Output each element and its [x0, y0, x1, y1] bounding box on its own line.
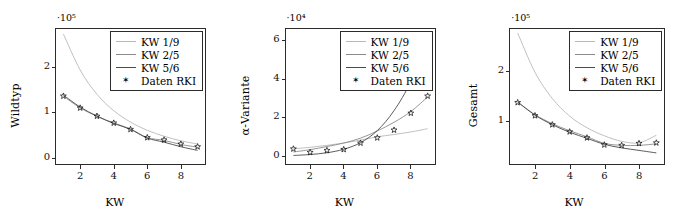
data-marker	[195, 144, 201, 150]
x-tick-label: 8	[629, 170, 649, 181]
legend-label: KW 5/6	[137, 62, 180, 74]
x-axis-label-1: KW	[230, 196, 460, 209]
legend-item: KW 5/6	[574, 61, 656, 74]
legend-item: KW 1/9	[115, 35, 197, 48]
chart-panel-gesamt: Gesamt ·10⁵ 122468 KW 1/9KW 2/5KW 5/6✶Da…	[459, 0, 689, 211]
legend-item: ✶Daten RKI	[115, 74, 197, 87]
legend-0: KW 1/9KW 2/5KW 5/6✶Daten RKI	[110, 31, 203, 91]
legend-line-swatch	[115, 61, 137, 74]
legend-line-swatch	[574, 48, 596, 61]
x-tick-label: 8	[171, 170, 191, 181]
x-tick-label: 6	[367, 170, 387, 181]
x-tick-mark	[535, 165, 536, 169]
legend-label: KW 2/5	[596, 49, 639, 61]
x-tick-mark	[377, 165, 378, 169]
y-tick-label: 2	[259, 110, 280, 121]
legend-2: KW 1/9KW 2/5KW 5/6✶Daten RKI	[569, 31, 662, 91]
legend-1: KW 1/9KW 2/5KW 5/6✶Daten RKI	[340, 31, 433, 91]
legend-label: KW 5/6	[367, 62, 410, 74]
x-tick-label: 6	[137, 170, 157, 181]
y-tick-mark	[282, 156, 286, 157]
x-tick-label: 4	[104, 170, 124, 181]
series-line-kw-1-9	[293, 129, 427, 149]
x-tick-label: 2	[300, 170, 320, 181]
y-tick-label: 0	[259, 149, 280, 160]
multi-panel-figure: Wildtyp ·10⁵ 0122468 KW 1/9KW 2/5KW 5/6✶…	[0, 0, 689, 211]
legend-line-swatch	[115, 48, 137, 61]
legend-line-swatch	[345, 61, 367, 74]
series-line-kw-5-6	[63, 95, 197, 150]
legend-label: KW 2/5	[137, 49, 180, 61]
legend-item: KW 1/9	[345, 35, 427, 48]
legend-item: KW 5/6	[345, 61, 427, 74]
y-tick-mark	[506, 71, 510, 72]
x-tick-mark	[80, 165, 81, 169]
x-tick-label: 6	[595, 170, 615, 181]
legend-item: KW 2/5	[115, 48, 197, 61]
legend-item: KW 5/6	[115, 61, 197, 74]
y-tick-label: 2	[483, 64, 504, 75]
legend-label: Daten RKI	[137, 75, 196, 87]
x-tick-label: 4	[560, 170, 580, 181]
x-axis-label-2: KW	[459, 196, 689, 209]
x-tick-mark	[310, 165, 311, 169]
data-marker	[391, 127, 397, 133]
x-tick-mark	[570, 165, 571, 169]
star-marker-icon: ✶	[574, 74, 596, 87]
legend-item: KW 1/9	[574, 35, 656, 48]
y-tick-mark	[282, 40, 286, 41]
legend-item: KW 2/5	[345, 48, 427, 61]
legend-line-swatch	[345, 35, 367, 48]
x-tick-label: 4	[333, 170, 353, 181]
y-tick-mark	[506, 121, 510, 122]
legend-line-swatch	[345, 48, 367, 61]
legend-item: KW 2/5	[574, 48, 656, 61]
x-tick-label: 2	[525, 170, 545, 181]
data-marker	[424, 93, 430, 99]
y-tick-mark	[52, 158, 56, 159]
chart-panel-wildtyp: Wildtyp ·10⁵ 0122468 KW 1/9KW 2/5KW 5/6✶…	[0, 0, 230, 211]
x-tick-label: 2	[70, 170, 90, 181]
star-marker-icon: ✶	[115, 74, 137, 87]
y-tick-label: 1	[483, 114, 504, 125]
data-marker	[654, 140, 660, 146]
y-tick-mark	[52, 112, 56, 113]
legend-label: KW 2/5	[367, 49, 410, 61]
y-tick-label: 6	[259, 33, 280, 44]
x-axis-label-0: KW	[0, 196, 230, 209]
y-tick-label: 4	[259, 72, 280, 83]
legend-item: ✶Daten RKI	[345, 74, 427, 87]
legend-label: KW 5/6	[596, 62, 639, 74]
chart-panel-alpha-variante: α-Variante ·10⁴ 02462468 KW 1/9KW 2/5KW …	[230, 0, 460, 211]
legend-label: KW 1/9	[137, 36, 180, 48]
data-marker	[374, 135, 380, 141]
legend-label: KW 1/9	[596, 36, 639, 48]
legend-line-swatch	[574, 35, 596, 48]
y-tick-mark	[52, 67, 56, 68]
x-tick-mark	[114, 165, 115, 169]
legend-line-swatch	[574, 61, 596, 74]
x-tick-mark	[343, 165, 344, 169]
x-tick-mark	[410, 165, 411, 169]
legend-label: Daten RKI	[596, 75, 655, 87]
legend-line-swatch	[115, 35, 137, 48]
y-tick-mark	[282, 79, 286, 80]
x-tick-label: 8	[400, 170, 420, 181]
legend-label: Daten RKI	[367, 75, 426, 87]
y-tick-label: 0	[29, 151, 50, 162]
data-marker	[407, 110, 413, 116]
legend-label: KW 1/9	[367, 36, 410, 48]
x-tick-mark	[605, 165, 606, 169]
x-tick-mark	[639, 165, 640, 169]
y-tick-label: 1	[29, 105, 50, 116]
x-tick-mark	[181, 165, 182, 169]
y-tick-label: 2	[29, 60, 50, 71]
x-tick-mark	[147, 165, 148, 169]
legend-item: ✶Daten RKI	[574, 74, 656, 87]
series-line-kw-2-5	[293, 97, 427, 152]
data-marker	[178, 141, 184, 147]
y-tick-mark	[282, 117, 286, 118]
star-marker-icon: ✶	[345, 74, 367, 87]
